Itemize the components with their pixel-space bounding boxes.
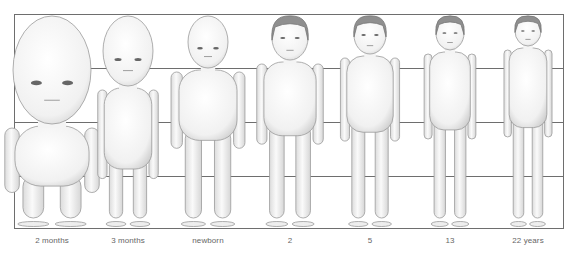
figure-5	[340, 16, 399, 227]
age-label-2: 2	[255, 236, 325, 245]
head-2-months	[13, 16, 91, 124]
age-label-5: 5	[335, 236, 405, 245]
figure-3-months	[98, 16, 159, 227]
age-label-3-months: 3 months	[93, 236, 163, 245]
figure-newborn	[171, 16, 245, 227]
age-label-22-years: 22 years	[493, 236, 563, 245]
age-label-2-months: 2 months	[17, 236, 87, 245]
head-newborn	[188, 16, 228, 68]
head-3-months	[103, 16, 153, 86]
figure-2-months	[5, 16, 99, 227]
figures-illustration	[0, 0, 576, 256]
figure-22-years	[504, 16, 552, 227]
figure-13	[424, 16, 476, 227]
age-label-13: 13	[415, 236, 485, 245]
figure-2	[257, 16, 324, 227]
age-label-newborn: newborn	[173, 236, 243, 245]
